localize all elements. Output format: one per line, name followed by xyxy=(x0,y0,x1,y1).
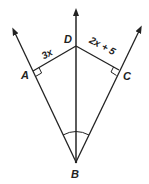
label-C: C xyxy=(123,70,132,82)
label-segment-DC: 2x + 5 xyxy=(87,34,118,58)
label-D: D xyxy=(64,33,72,45)
label-A: A xyxy=(20,69,29,81)
vertex-B-dot xyxy=(75,161,77,163)
geometry-diagram: A B C D 3x 2x + 5 xyxy=(0,0,149,184)
label-B: B xyxy=(71,168,79,180)
segment-AD xyxy=(33,46,76,71)
